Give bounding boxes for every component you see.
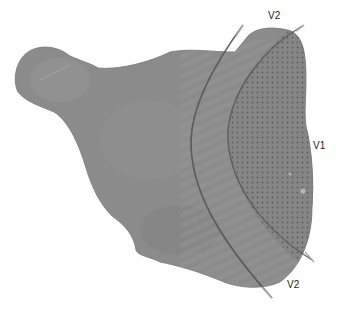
- label-v1: V1: [313, 141, 325, 151]
- tissue-section-image: [0, 0, 340, 311]
- label-v2-top: V2: [268, 11, 280, 21]
- label-v2-bottom: V2: [287, 280, 299, 290]
- tissue-figure: V2 V1 V2: [0, 0, 340, 311]
- guide-extension-top-left: [236, 25, 243, 36]
- guide-extension-top-right: [296, 25, 304, 31]
- guide-extension-bottom-left: [262, 287, 272, 298]
